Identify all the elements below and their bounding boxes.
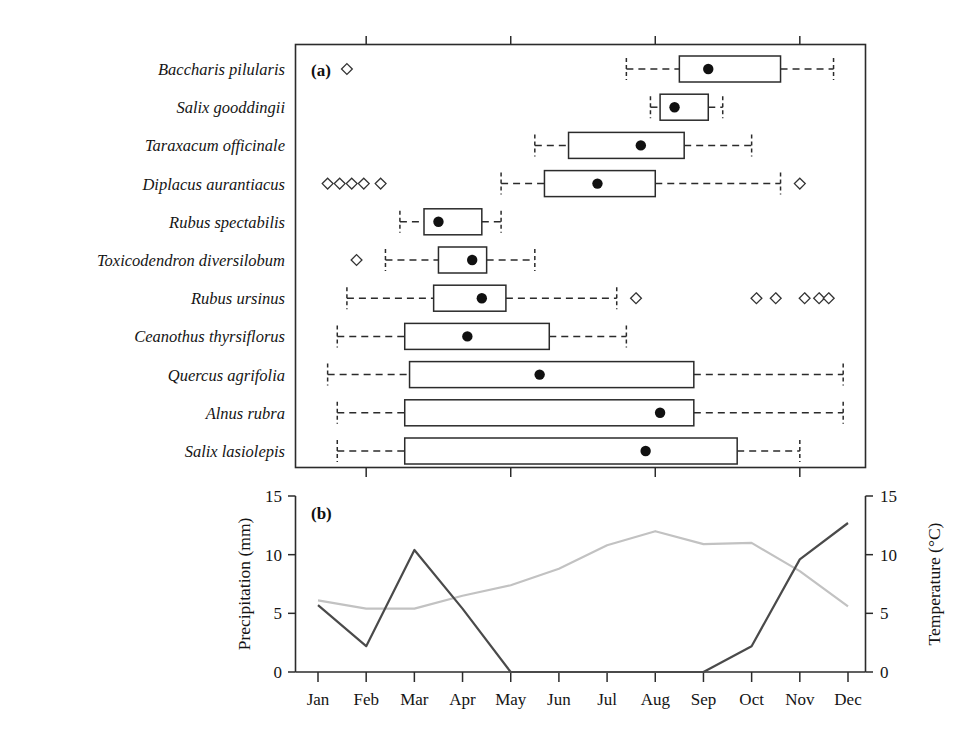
mean-marker	[640, 446, 650, 456]
outlier-diamond	[631, 293, 642, 304]
mean-marker	[467, 255, 477, 265]
month-label: May	[495, 690, 527, 709]
y-axis-left-title: Precipitation (mm)	[234, 517, 254, 650]
box-iqr	[405, 400, 694, 426]
y-axis-right-title: Temperature (°C)	[924, 522, 944, 645]
boxplot-group	[322, 56, 843, 464]
species-label-group: Baccharis pilularisSalix gooddingiiTarax…	[97, 60, 285, 461]
panel-b-left-tick-label: 10	[265, 546, 282, 565]
box-iqr	[438, 247, 486, 273]
species-label: Salix lasiolepis	[185, 442, 285, 461]
panel-b-tag: (b)	[311, 504, 332, 523]
species-label: Salix gooddingii	[176, 98, 285, 117]
month-label: Jul	[597, 690, 617, 709]
panel-b-xtick-group	[318, 672, 848, 682]
month-label: Dec	[834, 690, 862, 709]
mean-marker	[655, 408, 665, 418]
boxplot-row	[337, 438, 800, 464]
boxplot-row	[322, 171, 805, 197]
boxplot-row	[337, 323, 626, 349]
temperature-line	[318, 531, 848, 608]
month-label: Apr	[449, 690, 476, 709]
panel-b-right-tick-label: 0	[880, 663, 889, 682]
month-label: Oct	[739, 690, 764, 709]
species-label: Rubus ursinus	[190, 289, 285, 308]
month-label-group: JanFebMarAprMayJunJulAugSepOctNovDec	[307, 690, 862, 709]
panel-b-group	[296, 496, 866, 672]
outlier-diamond	[322, 178, 333, 189]
panel-b-left-tick-label: 15	[265, 487, 282, 506]
mean-marker	[592, 178, 602, 188]
boxplot-row	[337, 400, 843, 426]
panel-b-right-tick-label: 15	[880, 487, 897, 506]
outlier-diamond	[346, 178, 357, 189]
boxplot-row	[347, 285, 834, 311]
boxplot-row	[342, 56, 834, 82]
box-iqr	[405, 323, 550, 349]
boxplot-row	[351, 247, 535, 273]
panel-b-right-tick-label: 10	[880, 546, 897, 565]
month-label: Mar	[400, 690, 429, 709]
panel-b-left-tick-label: 5	[274, 604, 283, 623]
month-label: Aug	[641, 690, 671, 709]
outlier-diamond	[358, 178, 369, 189]
panel-b-right-tick-label: 5	[880, 604, 889, 623]
outlier-diamond	[375, 178, 386, 189]
box-iqr	[434, 285, 506, 311]
species-label: Rubus spectabilis	[168, 213, 285, 232]
figure-root: Baccharis pilularisSalix gooddingiiTarax…	[0, 0, 968, 749]
boxplot-row	[650, 94, 722, 120]
panel-b-left-tick-label: 0	[274, 663, 283, 682]
box-iqr	[679, 56, 780, 82]
mean-marker	[433, 217, 443, 227]
outlier-diamond	[342, 64, 353, 75]
panel-b-ytick-group: 151510105500	[265, 487, 897, 682]
outlier-diamond	[334, 178, 345, 189]
month-label: Jun	[547, 690, 571, 709]
mean-marker	[534, 369, 544, 379]
box-iqr	[660, 94, 708, 120]
month-label: Jan	[307, 690, 330, 709]
outlier-diamond	[751, 293, 762, 304]
species-label: Toxicodendron diversilobum	[97, 251, 285, 270]
boxplot-row	[400, 209, 501, 235]
box-iqr	[410, 362, 694, 388]
outlier-diamond	[799, 293, 810, 304]
mean-marker	[636, 140, 646, 150]
mean-marker	[703, 64, 713, 74]
species-label: Alnus rubra	[205, 404, 285, 423]
mean-marker	[477, 293, 487, 303]
outlier-diamond	[351, 255, 362, 266]
mean-marker	[462, 331, 472, 341]
month-label: Feb	[353, 690, 379, 709]
species-label: Quercus agrifolia	[168, 366, 285, 385]
species-label: Ceanothus thyrsiflorus	[134, 327, 285, 346]
boxplot-row	[328, 362, 844, 388]
figure-svg: Baccharis pilularisSalix gooddingiiTarax…	[0, 0, 968, 749]
box-iqr	[405, 438, 737, 464]
box-iqr	[424, 209, 482, 235]
outlier-diamond	[794, 178, 805, 189]
panel-a-tag: (a)	[311, 61, 331, 80]
month-label: Sep	[691, 690, 717, 709]
boxplot-row	[535, 132, 752, 158]
species-label: Diplacus aurantiacus	[141, 175, 285, 194]
precipitation-line	[318, 523, 848, 672]
mean-marker	[669, 102, 679, 112]
outlier-diamond	[823, 293, 834, 304]
box-iqr	[569, 132, 685, 158]
species-label: Taraxacum officinale	[145, 136, 285, 155]
species-label: Baccharis pilularis	[158, 60, 285, 79]
month-label: Nov	[785, 690, 815, 709]
outlier-diamond	[770, 293, 781, 304]
